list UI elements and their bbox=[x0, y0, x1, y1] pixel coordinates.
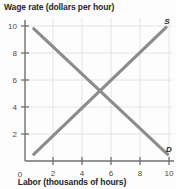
demand-curve-label: D bbox=[166, 145, 172, 154]
x-axis-label: Labor (thousands of hours) bbox=[18, 177, 126, 187]
supply-demand-plot: 10 8 6 4 2 0 2 4 6 8 10 S D bbox=[0, 0, 176, 189]
supply-curve-label: S bbox=[164, 17, 170, 26]
ytick-label-6: 6 bbox=[13, 76, 18, 85]
ytick-label-2: 2 bbox=[13, 130, 18, 139]
ytick-label-4: 4 bbox=[13, 103, 18, 112]
ytick-label-10: 10 bbox=[8, 22, 17, 31]
xtick-label-8: 8 bbox=[138, 169, 143, 178]
ytick-label-8: 8 bbox=[13, 49, 18, 58]
chart-figure: Wage rate (dollars per hour) bbox=[0, 0, 176, 189]
xtick-label-10: 10 bbox=[165, 169, 174, 178]
